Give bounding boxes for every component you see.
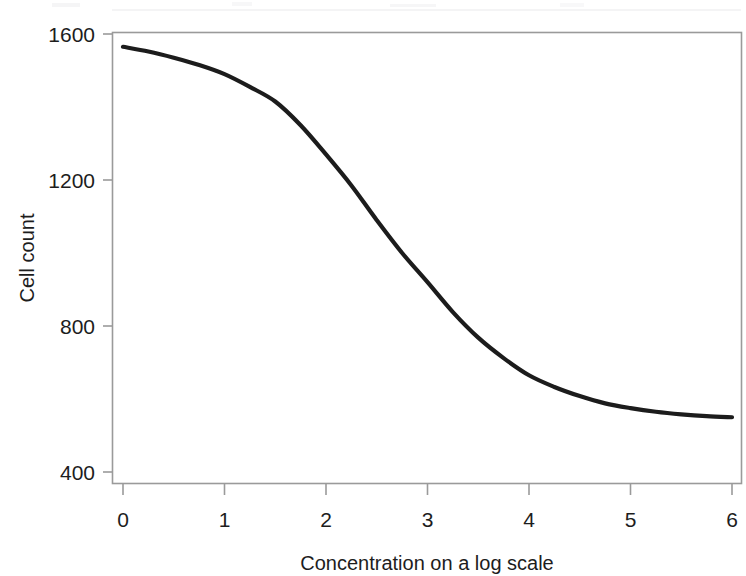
figure-container: 1600 1200 800 400 0 1 2 3 4 5 6 Cell cou… <box>0 0 746 576</box>
x-axis-title: Concentration on a log scale <box>300 552 554 574</box>
y-axis-title: Cell count <box>16 213 38 302</box>
y-tick-label-1200: 1200 <box>48 169 95 192</box>
dose-response-chart: 1600 1200 800 400 0 1 2 3 4 5 6 Cell cou… <box>0 0 746 576</box>
x-tick-label-2: 2 <box>320 508 332 531</box>
x-tick-label-4: 4 <box>523 508 535 531</box>
plot-frame <box>113 33 742 484</box>
x-tick-label-3: 3 <box>422 508 434 531</box>
x-axis-ticks <box>123 483 732 495</box>
x-tick-label-1: 1 <box>219 508 231 531</box>
y-tick-label-1600: 1600 <box>48 23 95 46</box>
x-tick-label-6: 6 <box>726 508 738 531</box>
y-tick-label-800: 800 <box>60 315 95 338</box>
y-tick-label-400: 400 <box>60 461 95 484</box>
y-axis-ticks <box>103 34 112 472</box>
dose-response-curve <box>123 47 732 417</box>
scan-artifact-marks <box>52 2 741 11</box>
x-tick-label-5: 5 <box>625 508 637 531</box>
x-tick-label-0: 0 <box>117 508 129 531</box>
